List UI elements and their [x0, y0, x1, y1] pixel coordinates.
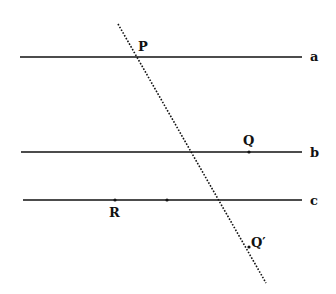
label-line-b: b — [310, 145, 319, 160]
parallel-lines-diagram: P Q R Q′ a b c — [0, 0, 336, 294]
label-r: R — [109, 205, 120, 220]
point-mid-c — [165, 198, 168, 201]
label-q: Q — [243, 133, 254, 148]
point-r — [113, 198, 116, 201]
transversal-line — [118, 24, 266, 283]
label-line-c: c — [310, 193, 318, 208]
point-q — [247, 150, 250, 153]
label-line-a: a — [310, 49, 319, 64]
label-q-prime: Q′ — [251, 235, 266, 250]
label-p: P — [138, 39, 148, 54]
